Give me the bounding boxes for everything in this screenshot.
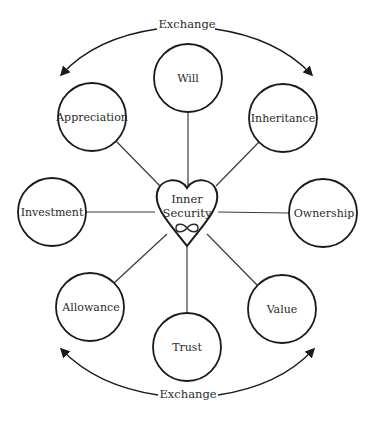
node-label: Inheritance	[251, 112, 316, 125]
node-allowance: Allowance	[56, 273, 124, 341]
node-inheritance: Inheritance	[249, 84, 317, 152]
node-appreciation: Appreciation	[55, 83, 128, 151]
exchange-label-bottom: Exchange	[159, 387, 216, 401]
connector-ownership	[218, 212, 289, 213]
node-label: Ownership	[294, 207, 355, 220]
inner-security-diagram: Exchange Exchange Will Inheritance Owner…	[0, 0, 377, 421]
bottom-right-arrow-arc	[218, 350, 313, 395]
top-right-arrow-arc	[215, 29, 311, 74]
node-investment: Investment	[18, 178, 86, 246]
top-left-arrow-arc	[62, 29, 157, 74]
node-label: Value	[266, 303, 298, 316]
center-label-line1: Inner	[171, 192, 203, 206]
connector-value	[207, 234, 257, 285]
node-label: Appreciation	[55, 111, 128, 124]
node-label: Investment	[21, 206, 84, 219]
node-label: Will	[177, 72, 199, 85]
connector-allowance	[114, 234, 167, 283]
node-ownership: Ownership	[289, 179, 357, 247]
node-label: Allowance	[61, 301, 119, 314]
node-label: Trust	[172, 341, 202, 354]
center-label-line2: Security	[163, 206, 212, 220]
node-trust: Trust	[153, 313, 221, 381]
node-will: Will	[154, 44, 222, 112]
bottom-left-arrow-arc	[62, 350, 158, 395]
exchange-label-top: Exchange	[158, 17, 215, 31]
connector-appreciation	[116, 141, 160, 186]
node-value: Value	[248, 275, 316, 343]
connector-inheritance	[216, 142, 259, 186]
